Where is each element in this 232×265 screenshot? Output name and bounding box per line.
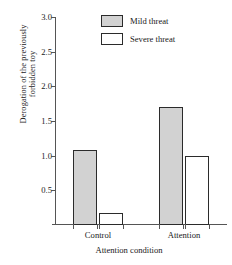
y-axis-tick: [51, 121, 56, 122]
x-axis-tick: [159, 224, 160, 229]
x-axis-category-label: Attention: [168, 231, 200, 240]
y-axis-tick: [51, 190, 56, 191]
y-axis-tick-label: 0.5: [28, 186, 52, 195]
x-axis-tick: [183, 224, 184, 229]
y-axis-tick: [51, 86, 56, 87]
x-axis-tick: [123, 224, 124, 229]
y-axis-tick: [51, 52, 56, 53]
legend-swatch-mild-threat: [101, 15, 123, 27]
x-axis-tick: [73, 224, 74, 229]
y-axis-tick-label: 3.0: [28, 13, 52, 22]
y-axis-tick-label: 1.5: [28, 117, 52, 126]
x-axis-title: Attention condition: [0, 245, 232, 255]
y-axis-tick-labels: 3.02.52.01.51.00.5: [18, 0, 52, 265]
legend-label-mild-threat: Mild threat: [130, 17, 168, 26]
legend: Mild threat Severe threat: [101, 13, 175, 49]
bar: [99, 213, 123, 225]
legend-item-severe-threat: Severe threat: [101, 31, 175, 47]
bar: [185, 156, 209, 225]
y-axis-tick-label: 1.0: [28, 151, 52, 160]
bar-chart-figure: Derogation of the previously forbidden t…: [0, 0, 232, 265]
bar: [159, 107, 183, 225]
y-axis-tick: [51, 156, 56, 157]
bar: [73, 150, 97, 225]
legend-item-mild-threat: Mild threat: [101, 13, 175, 29]
x-axis-tick: [97, 224, 98, 229]
legend-label-severe-threat: Severe threat: [130, 35, 175, 44]
x-axis-category-labels: ControlAttention: [55, 231, 227, 243]
x-axis-category-label: Control: [85, 231, 111, 240]
y-axis-tick: [51, 17, 56, 18]
x-axis-tick: [209, 224, 210, 229]
legend-swatch-severe-threat: [101, 33, 123, 45]
x-axis-tick: [99, 224, 100, 229]
y-axis-tick-label: 2.5: [28, 47, 52, 56]
y-axis-tick-label: 2.0: [28, 82, 52, 91]
x-axis-tick: [185, 224, 186, 229]
